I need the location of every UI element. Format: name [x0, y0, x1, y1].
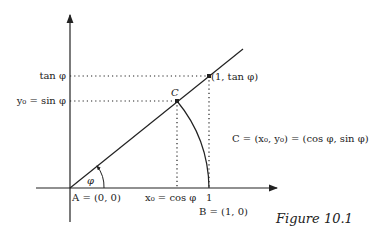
unit-circle-diagram: tan φ y₀ = sin φ C (1, tan φ) C = (x₀, y…	[0, 0, 369, 245]
sin-label: y₀ = sin φ	[16, 95, 66, 106]
angle-arc-icon	[97, 166, 104, 188]
one-tick-label: 1	[206, 192, 212, 203]
origin-label: A = (0, 0)	[71, 192, 121, 203]
c-definition: C = (x₀, y₀) = (cos φ, sin φ)	[232, 133, 369, 144]
angle-ray	[70, 49, 243, 188]
angle-label: φ	[87, 175, 94, 186]
tan-label: tan φ	[39, 70, 66, 81]
cos-label: x₀ = cos φ	[145, 192, 196, 203]
figure-caption: Figure 10.1	[275, 211, 353, 226]
tan-point-label: (1, tan φ)	[211, 71, 258, 82]
b-label: B = (1, 0)	[199, 206, 248, 217]
unit-arc	[177, 101, 209, 188]
c-label: C	[171, 87, 179, 98]
point-c	[175, 99, 179, 103]
